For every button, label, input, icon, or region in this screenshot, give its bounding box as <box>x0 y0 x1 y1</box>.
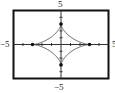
x-max-label: 5 <box>112 40 115 49</box>
y-min-label: −5 <box>54 83 64 92</box>
x-min-label: −5 <box>0 40 10 49</box>
astroid-plot <box>0 0 115 93</box>
y-max-label: 5 <box>58 0 63 9</box>
